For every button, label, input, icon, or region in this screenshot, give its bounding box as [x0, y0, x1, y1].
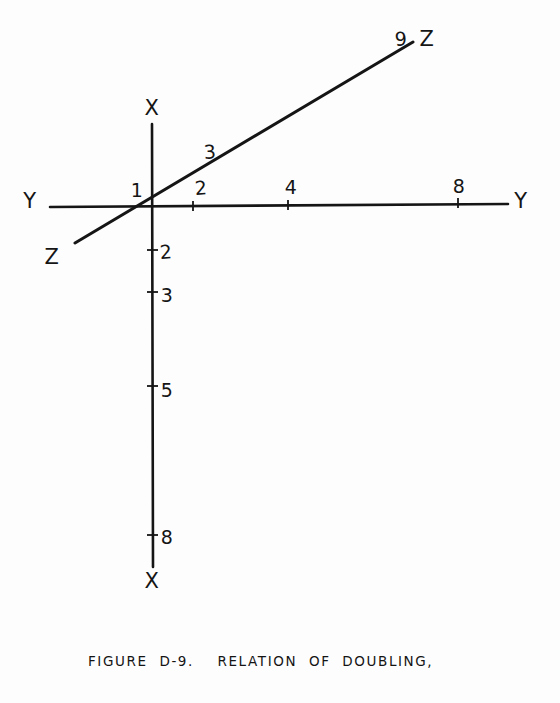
tick-label-vertical-2: 2 [159, 242, 173, 262]
tick-label-horizontal-1: 1 [131, 181, 144, 200]
tick-label-horizontal-8: 8 [453, 177, 466, 196]
axis-label-x-top: X [145, 98, 160, 119]
tick-label-horizontal-2: 2 [194, 178, 208, 198]
diagonal-z-line [75, 42, 413, 243]
horizontal-axis-line [50, 204, 508, 207]
tick-label-vertical-8: 8 [161, 528, 174, 547]
tick-label-diagonal-3: 3 [203, 142, 217, 162]
axis-label-x-bottom: X [145, 571, 160, 592]
figure-drawing [0, 0, 560, 703]
caption-line-1: FIGURE D-9. RELATION OF DOUBLING, [88, 652, 508, 671]
tick-label-diagonal-9: 9 [394, 29, 408, 49]
axis-label-y-right: Y [514, 191, 527, 212]
figure-caption: FIGURE D-9. RELATION OF DOUBLING, TRIPLI… [88, 614, 508, 703]
axis-label-y-left: Y [23, 191, 36, 212]
axis-label-z-lower: Z [45, 247, 60, 268]
tick-label-vertical-3: 3 [161, 286, 174, 305]
tick-label-horizontal-4: 4 [285, 178, 298, 197]
axis-label-z-upper: Z [420, 29, 435, 50]
vertical-axis-line [152, 124, 153, 567]
figure-container: Y Y X X Z Z 1 2 4 8 2 3 5 8 3 9 FIGURE D… [0, 0, 560, 703]
tick-label-vertical-5: 5 [161, 381, 174, 400]
